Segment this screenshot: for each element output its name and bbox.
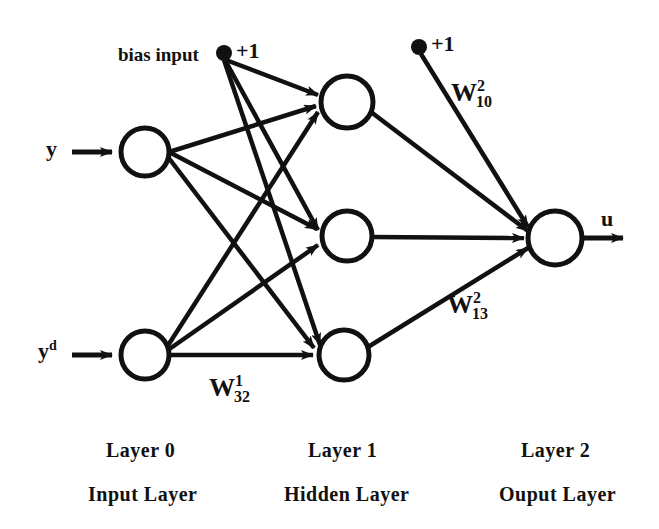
weight-superscript: 1 [235,372,243,389]
neural-network-diagram: bias input +1 +1 y yd u W132 W210 W213 L… [0,0,659,529]
weight-symbol: W [451,78,477,107]
input-label-y: y [46,138,57,160]
weight-label-w10-2: W210 [451,78,492,110]
node-hidden-3[interactable] [319,330,369,380]
weight-subscript: 32 [234,388,250,405]
weight-label-w13-2: W213 [447,290,488,322]
edge-hidden1-output [371,112,528,231]
bias-node-layer1-dot-icon[interactable] [216,45,232,61]
bias-node-layer2-dot-icon[interactable] [411,39,427,55]
input-label-yd: yd [38,339,57,362]
weight-symbol: W [447,290,473,319]
weight-symbol: W [209,373,235,402]
input-label-yd-base: y [38,338,49,363]
input-label-yd-superscript: d [49,338,57,353]
layer-1-name-label: Hidden Layer [284,484,409,504]
bias-layer2-value-label: +1 [431,33,455,55]
edge-hidden2-output [372,237,524,238]
edge-input2-hidden2 [168,245,318,350]
bias-layer1-value-label: +1 [236,40,260,62]
layer-0-number-label: Layer 0 [106,440,175,460]
node-input-2[interactable] [121,331,169,379]
node-hidden-2[interactable] [322,211,372,261]
weight-superscript: 2 [473,289,481,306]
layer-2-number-label: Layer 2 [521,440,590,460]
layer-2-name-label: Ouput Layer [499,484,616,504]
layer-1-number-label: Layer 1 [308,440,377,460]
weight-label-w32-1: W132 [209,373,250,405]
layer-0-name-label: Input Layer [88,484,197,504]
weight-subscript: 10 [476,93,492,110]
node-output-1[interactable] [528,211,582,265]
node-hidden-1[interactable] [321,76,373,128]
output-label-u: u [601,208,613,230]
bias-input-label: bias input [118,45,199,64]
node-input-1[interactable] [121,128,169,176]
weight-superscript: 2 [477,77,485,94]
weight-subscript: 13 [472,305,488,322]
